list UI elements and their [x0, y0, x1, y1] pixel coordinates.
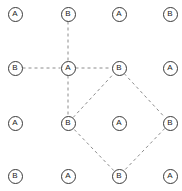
graph-node-n00[interactable]: A [8, 7, 23, 22]
graph-node-label: A [12, 10, 17, 18]
graph-node-n30[interactable]: B [8, 169, 23, 184]
graph-node-n31[interactable]: A [61, 169, 76, 184]
graph-node-n32[interactable]: B [112, 169, 127, 184]
graph-node-n22[interactable]: A [112, 116, 127, 131]
edge-layer [0, 0, 182, 191]
graph-node-n11[interactable]: A [61, 61, 76, 76]
graph-node-label: B [167, 10, 172, 18]
graph-node-label: B [116, 172, 121, 180]
graph-node-label: A [12, 119, 17, 127]
graph-node-label: A [65, 172, 70, 180]
graph-node-label: A [167, 172, 172, 180]
graph-node-label: A [116, 10, 121, 18]
graph-node-label: A [167, 64, 172, 72]
graph-node-n01[interactable]: B [61, 7, 76, 22]
graph-node-label: B [116, 64, 121, 72]
graph-edge [73, 73, 114, 117]
graph-edge [124, 128, 165, 170]
graph-node-n33[interactable]: A [163, 169, 178, 184]
graph-node-n12[interactable]: B [112, 61, 127, 76]
edges-group [23, 22, 165, 171]
graph-node-label: B [65, 10, 70, 18]
node-link-diagram: ABABBABAABABBABA [0, 0, 182, 191]
graph-node-label: B [12, 64, 17, 72]
graph-node-label: B [167, 119, 172, 127]
graph-node-n20[interactable]: A [8, 116, 23, 131]
graph-node-n03[interactable]: B [163, 7, 178, 22]
graph-node-n23[interactable]: B [163, 116, 178, 131]
graph-edge [73, 128, 114, 170]
graph-node-label: B [65, 119, 70, 127]
graph-node-n13[interactable]: A [163, 61, 178, 76]
graph-node-n02[interactable]: A [112, 7, 127, 22]
graph-edge [124, 73, 165, 117]
graph-node-n21[interactable]: B [61, 116, 76, 131]
graph-node-label: A [116, 119, 121, 127]
graph-node-label: B [12, 172, 17, 180]
graph-node-n10[interactable]: B [8, 61, 23, 76]
graph-node-label: A [65, 64, 70, 72]
